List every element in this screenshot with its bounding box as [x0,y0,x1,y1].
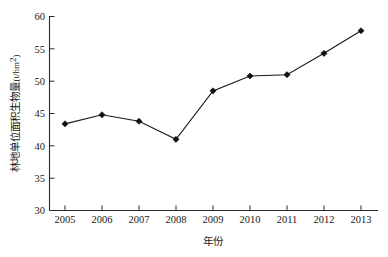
y-tick-label-60: 60 [35,11,46,22]
x-tick-label-2006: 2006 [92,214,113,225]
y-tick-label-40: 40 [35,141,46,152]
x-tick-label-2005: 2005 [55,214,76,225]
chart-container: 60 55 50 45 40 35 30 林地单位面积生物量(t/hm2) [0,0,388,257]
y-axis-title-text: 林地单位面积生物量 [9,81,21,172]
x-tick-label-2009: 2009 [203,214,224,225]
x-tick-label-2011: 2011 [277,214,298,225]
line-chart: 60 55 50 45 40 35 30 林地单位面积生物量(t/hm2) [0,0,388,257]
y-tick-label-35: 35 [35,173,46,184]
x-tick-label-2010: 2010 [240,214,261,225]
x-tick-label-2012: 2012 [314,214,335,225]
y-tick-label-50: 50 [35,76,46,87]
y-tick-label-55: 55 [35,44,46,55]
y-axis-unit-close: ) [11,55,21,58]
y-tick-label-30: 30 [35,205,46,216]
x-axis-tick-labels: 2005 2006 2007 2008 2009 2010 2011 2012 … [55,214,372,225]
x-tick-label-2013: 2013 [351,214,372,225]
x-tick-label-2007: 2007 [129,214,150,225]
x-tick-label-2008: 2008 [166,214,187,225]
y-axis-unit-base: (t/hm [11,62,21,82]
x-axis-title: 年份 [203,235,224,247]
y-tick-label-45: 45 [35,108,46,119]
